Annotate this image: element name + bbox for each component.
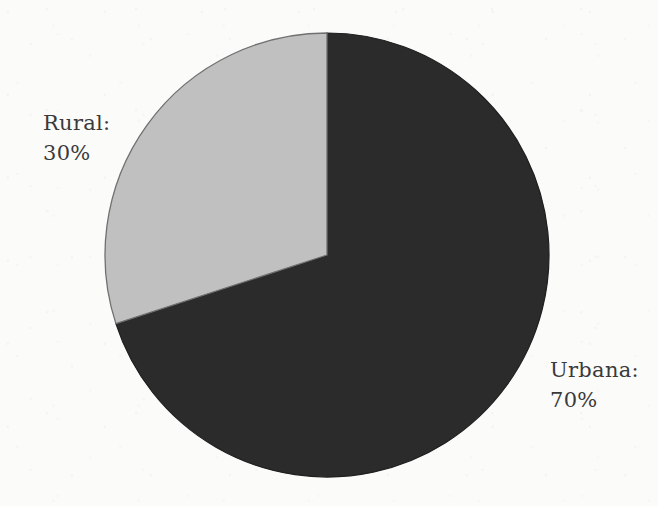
- slice-label-urbana-value: 70%: [550, 385, 639, 415]
- slice-label-rural-value: 30%: [43, 138, 111, 168]
- slice-label-urbana-name: Urbana:: [550, 355, 639, 385]
- slice-label-rural-name: Rural:: [43, 108, 111, 138]
- pie-chart-figure: Rural: 30% Urbana: 70%: [0, 0, 658, 506]
- slice-label-urbana: Urbana: 70%: [550, 355, 639, 415]
- pie-chart-svg: [0, 0, 658, 506]
- slice-label-rural: Rural: 30%: [43, 108, 111, 168]
- chart-plot-area: Rural: 30% Urbana: 70%: [0, 0, 658, 506]
